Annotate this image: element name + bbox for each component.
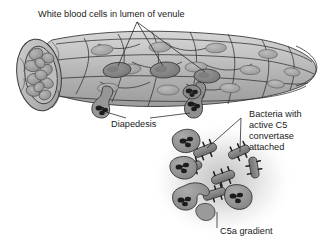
wbc-in-wall-right [183,85,201,99]
label-bacteria-line3: convertase [249,131,294,141]
label-diapedesis: Diapedesis [111,119,157,129]
label-bacteria-line2: active C5 [249,120,287,130]
label-title: White blood cells in lumen of venule [38,9,185,19]
figure-canvas: White blood cells in lumen of venule Dia… [0,0,326,247]
neutrophil [196,203,215,220]
venule-diapedesis-diagram: White blood cells in lumen of venule Dia… [0,0,326,247]
neutrophil [172,129,200,152]
leader-diapedesis-1 [106,112,126,118]
label-c5a-gradient: C5a gradient [220,226,273,236]
leader-diapedesis-2 [150,113,190,118]
label-bacteria-line1: Bacteria with [249,109,302,119]
neutrophil [225,185,253,210]
label-bacteria-line4: attached [249,142,284,152]
